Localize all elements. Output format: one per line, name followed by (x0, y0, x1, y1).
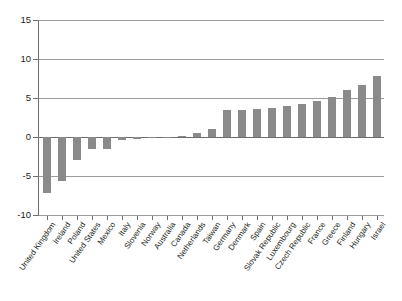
x-axis-labels: United KingdomIrelandPolandUnited States… (0, 0, 402, 301)
bar-chart: 151050-5-10 United KingdomIrelandPolandU… (0, 0, 402, 301)
